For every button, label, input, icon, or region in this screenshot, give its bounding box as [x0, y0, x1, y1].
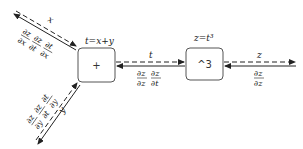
- edge-t-gradients: ∂z ∂z ∂z ∂t: [137, 69, 161, 88]
- node-cube-equation: z=t³: [193, 33, 214, 43]
- edge-y-gradients: ∂z ∂y ∂z ∂t ∂t ∂y: [24, 90, 60, 130]
- computation-graph: x ∂z ∂x ∂z ∂t ∂t ∂x y ∂z ∂y ∂z ∂t ∂t ∂y …: [0, 0, 303, 149]
- svg-text:∂z: ∂z: [151, 69, 160, 78]
- svg-text:∂z: ∂z: [254, 69, 263, 78]
- edge-z: [224, 62, 296, 66]
- edge-x-label: x: [46, 14, 55, 25]
- edge-z-gradients: ∂z ∂z: [254, 69, 264, 88]
- svg-text:∂t: ∂t: [151, 79, 159, 88]
- edge-z-label: z: [256, 50, 262, 60]
- edge-t-label: t: [149, 50, 153, 60]
- node-plus: +: [78, 48, 115, 82]
- node-plus-equation: t=x+y: [85, 36, 115, 46]
- edge-x-gradients: ∂z ∂x ∂z ∂t ∂t ∂x: [16, 27, 57, 61]
- svg-text:∂z: ∂z: [137, 79, 146, 88]
- node-plus-label: +: [92, 60, 100, 71]
- svg-text:∂z: ∂z: [254, 79, 263, 88]
- svg-text:∂z: ∂z: [137, 69, 146, 78]
- edge-t: [116, 62, 185, 66]
- edge-y-label: y: [56, 104, 68, 115]
- node-cube-label: ^3: [197, 59, 212, 70]
- node-cube: ^3: [186, 48, 223, 80]
